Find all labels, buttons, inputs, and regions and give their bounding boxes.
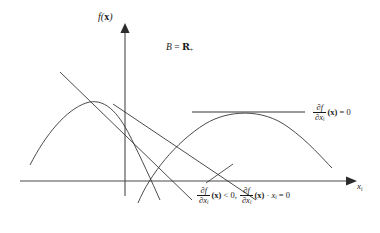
domain-equals-sign: = [174, 42, 179, 52]
complementarity-annotation: ∂f ∂xi (x) < 0, ∂f ∂xi (x) · xi = 0 [196, 186, 290, 206]
complementarity-argument-1: (x) [211, 190, 221, 200]
curve-left-parabola [30, 102, 160, 200]
domain-set-symbol: B [166, 42, 172, 52]
domain-annotation: B = R+ [166, 42, 193, 54]
callout-leader-line [206, 164, 233, 183]
x-axis [20, 176, 357, 185]
stationarity-argument: (x) [327, 107, 337, 117]
domain-reals-subscript: + [190, 47, 193, 53]
stationarity-relation: = 0 [340, 107, 351, 117]
y-axis-arrowhead [120, 23, 129, 33]
stationarity-denominator: ∂xi [313, 113, 326, 123]
complementarity-denominator-2: ∂xi [240, 196, 253, 206]
math-figure: f(x) xi B = R+ ∂f ∂xi (x) = 0 ∂f ∂xi (x)… [0, 0, 380, 233]
complementarity-fraction-2: ∂f ∂xi [240, 186, 253, 206]
complementarity-denominator-1: ∂xi [197, 196, 210, 206]
complementarity-operator: · [266, 190, 269, 200]
complementarity-variable-subscript: i [275, 194, 276, 200]
complementarity-relation-2: = 0 [279, 190, 290, 200]
stationarity-annotation: ∂f ∂xi (x) = 0 [312, 103, 351, 123]
x-axis-arrowhead [346, 176, 357, 185]
y-axis-label: f(x) [98, 12, 112, 22]
complementarity-relation-1: < 0, [224, 190, 237, 200]
x-axis-label-subscript: i [361, 186, 363, 192]
x-axis-label: xi [357, 182, 363, 192]
complementarity-argument-2: (x) [254, 190, 264, 200]
domain-reals-symbol: R [182, 41, 190, 52]
complementarity-fraction-1: ∂f ∂xi [197, 186, 210, 206]
stationarity-fraction: ∂f ∂xi [313, 103, 326, 123]
